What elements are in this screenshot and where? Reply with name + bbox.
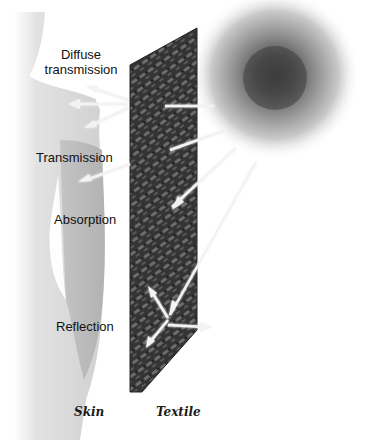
label-diffuse-line2: transmission (36, 62, 126, 77)
textile-panel (130, 28, 197, 392)
label-diffuse-line1: Diffuse (36, 47, 126, 62)
label-transmission: Transmission (36, 150, 113, 165)
caption-textile: Textile (156, 405, 201, 419)
label-reflection: Reflection (56, 319, 114, 334)
label-diffuse-transmission: Diffuse transmission (36, 47, 126, 77)
sun-icon (190, 0, 360, 160)
light-textile-skin-diagram: Diffuse transmission Transmission Absorp… (0, 0, 381, 448)
label-absorption: Absorption (54, 212, 116, 227)
caption-skin: Skin (74, 405, 104, 419)
